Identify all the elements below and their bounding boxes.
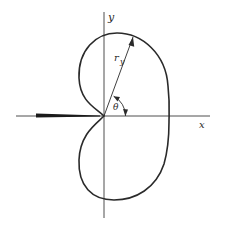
radius-vector [104,37,134,116]
angle-label: θ [113,102,119,112]
x-axis-label: x [199,119,205,130]
cardioid-diagram: y x r y θ [0,0,226,227]
y-axis-label: y [107,11,115,24]
radius-subscript-label: y [119,57,125,66]
negative-x-wedge [36,114,100,118]
arc-arrowhead-bottom-icon [123,109,128,116]
arrowhead-icon [129,37,135,47]
